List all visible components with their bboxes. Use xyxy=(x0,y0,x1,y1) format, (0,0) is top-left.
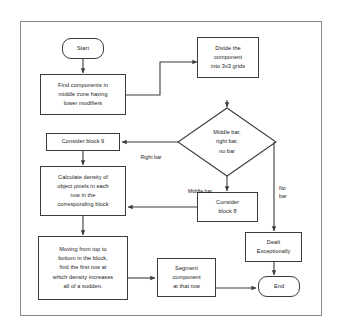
edge-label-right-bar-text: Right bar xyxy=(140,154,161,160)
node-dealt-exceptionally-label: Dealt Exceptionally xyxy=(257,238,291,256)
node-consider-block-8-label: Consider block 8 xyxy=(216,198,239,216)
flowchart-image: Start Find components in middle zone hav… xyxy=(0,0,338,336)
node-segment-component: Segment component at that row xyxy=(157,258,216,297)
edge-label-middle-bar-text: Middle bar xyxy=(188,188,212,194)
edge-label-no-bar: No bar xyxy=(279,177,301,200)
node-consider-block-9-label: Consider block 9 xyxy=(62,137,105,146)
node-moving-top-bottom-label: Moving from top to bottom in the block, … xyxy=(53,245,113,290)
node-start-label: Start xyxy=(77,44,89,53)
node-divide-component: Divide the component into 3x3 grids xyxy=(197,37,259,78)
edge-find-to-divide xyxy=(126,62,197,95)
edge-label-right-bar: Right bar xyxy=(129,146,173,162)
node-calculate-density-label: Calculate density of object pixels in ea… xyxy=(57,173,109,209)
node-start: Start xyxy=(62,38,104,59)
node-calculate-density: Calculate density of object pixels in ea… xyxy=(40,166,126,216)
node-dealt-exceptionally: Dealt Exceptionally xyxy=(245,232,302,262)
node-end-label: End xyxy=(274,282,284,291)
decision-diamond-shape xyxy=(178,108,276,176)
node-moving-top-bottom: Moving from top to bottom in the block, … xyxy=(38,236,128,300)
edge-label-middle-bar: Middle bar xyxy=(178,180,222,196)
node-end: End xyxy=(258,276,300,297)
edge-label-no-bar-text: No bar xyxy=(279,185,287,199)
node-segment-component-label: Segment component at that row xyxy=(172,264,200,291)
node-divide-component-label: Divide the component into 3x3 grids xyxy=(211,44,245,71)
node-consider-block-8: Consider block 8 xyxy=(197,192,258,222)
node-find-components-label: Find components in middle zone having lo… xyxy=(58,81,108,108)
node-find-components: Find components in middle zone having lo… xyxy=(40,74,126,115)
node-consider-block-9: Consider block 9 xyxy=(46,133,120,151)
